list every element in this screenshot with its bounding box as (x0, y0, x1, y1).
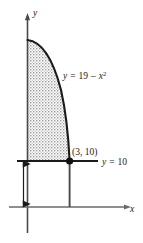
y-axis-label: y (32, 8, 38, 18)
curve-eq-minus: – (90, 71, 96, 81)
curve-eq-exponent: 2 (103, 70, 106, 77)
hline-label-equals: = (109, 157, 114, 167)
point-coordinate-label: (3, 10) (72, 147, 97, 158)
intersection-point-dot (66, 157, 73, 164)
hline-label-lhs: y (101, 157, 107, 167)
curve-eq-equals: = (70, 71, 75, 81)
svg-text:y=10: y=10 (101, 157, 127, 167)
curve-eq-lhs: y (62, 71, 68, 81)
curve-equation-label: y=19–x2 (62, 70, 106, 81)
x-axis-label: x (129, 204, 135, 214)
hline-label-value: 10 (118, 157, 128, 167)
svg-text:y=19–x2: y=19–x2 (62, 70, 106, 81)
curve-eq-constant: 19 (79, 71, 89, 81)
intersection-point-group (66, 157, 73, 164)
figure-canvas: y x y=19–x2 (3, 10) y=10 (0, 0, 143, 243)
horizontal-line-label: y=10 (101, 157, 127, 167)
y-axis-arrowhead (25, 13, 30, 20)
